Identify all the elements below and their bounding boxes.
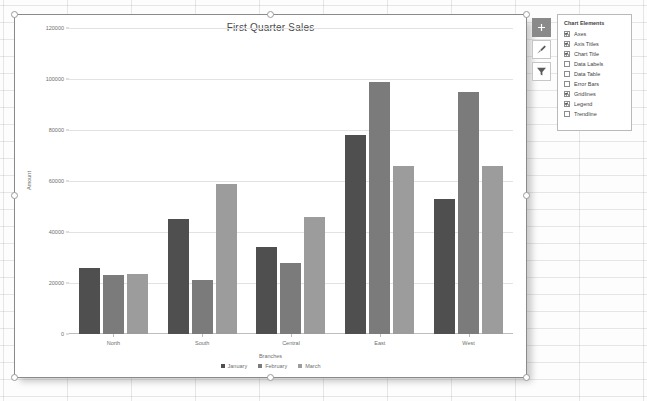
legend-item[interactable]: January [221,363,248,369]
x-axis-tick-label: South [158,340,247,346]
plus-icon [537,23,546,32]
bar[interactable] [216,184,237,334]
legend-label: March [305,363,320,369]
panel-title: Chart Elements [564,20,631,26]
brush-icon [536,44,547,55]
checkbox-unchecked-icon[interactable] [564,61,570,67]
chart-elements-list: AxesAxis TitlesChart TitleData LabelsDat… [558,29,631,119]
resize-handle-bottom-left[interactable] [11,374,18,381]
x-axis-tick-mark [469,334,470,337]
legend-label: February [265,363,287,369]
bar-group: Central [247,28,336,334]
chart-elements-panel[interactable]: Chart Elements AxesAxis TitlesChart Titl… [557,14,632,131]
legend-item[interactable]: March [298,363,320,369]
y-axis-tick-label: 120000 [46,25,64,31]
bar-group: East [335,28,424,334]
x-axis-tick-label: Central [247,340,336,346]
chart-filters-button[interactable] [532,62,551,81]
checkbox-checked-icon[interactable] [564,101,570,107]
bar[interactable] [304,217,325,334]
chart-element-row[interactable]: Error Bars [558,79,631,89]
checkbox-checked-icon[interactable] [564,41,570,47]
bar[interactable] [256,247,277,334]
resize-handle-middle-right[interactable] [523,192,530,199]
resize-handle-bottom-right[interactable] [523,374,530,381]
resize-handle-top-center[interactable] [267,11,274,18]
funnel-icon [536,66,547,77]
resize-handle-bottom-center[interactable] [267,374,274,381]
chart-element-row[interactable]: Data Labels [558,59,631,69]
y-axis-tick-label: 0 [61,331,64,337]
y-axis-tick-label: 20000 [49,280,64,286]
legend-label: January [228,363,248,369]
y-axis-tick-label: 40000 [49,229,64,235]
resize-handle-top-right[interactable] [523,11,530,18]
chart-element-row[interactable]: Axes [558,29,631,39]
x-axis-tick-mark [113,334,114,337]
chart-element-label: Legend [574,101,592,107]
chart-elements-button[interactable] [532,18,551,37]
chart-element-label: Axis Titles [574,41,599,47]
bar[interactable] [458,92,479,334]
chart-element-row[interactable]: Chart Title [558,49,631,59]
bar-group: West [424,28,513,334]
resize-handle-top-left[interactable] [11,11,18,18]
bar[interactable] [393,166,414,334]
x-axis-tick-mark [291,334,292,337]
y-axis-tick-label: 100000 [46,76,64,82]
chart-legend[interactable]: JanuaryFebruaryMarch [15,363,526,369]
y-axis-tick-label: 60000 [49,178,64,184]
plot-area[interactable]: 020000400006000080000100000120000 NorthS… [69,28,513,334]
resize-handle-middle-left[interactable] [11,192,18,199]
bar[interactable] [79,268,100,334]
checkbox-unchecked-icon[interactable] [564,111,570,117]
bar-group: South [158,28,247,334]
checkbox-unchecked-icon[interactable] [564,81,570,87]
chart-element-label: Gridlines [574,91,596,97]
bar[interactable] [369,82,390,334]
x-axis-tick-mark [380,334,381,337]
legend-swatch [258,364,262,368]
checkbox-checked-icon[interactable] [564,51,570,57]
x-axis-tick-label: West [424,340,513,346]
x-axis-tick-label: East [335,340,424,346]
bar[interactable] [434,199,455,334]
chart-element-row[interactable]: Axis Titles [558,39,631,49]
legend-item[interactable]: February [258,363,287,369]
bar[interactable] [103,275,124,334]
bar[interactable] [482,166,503,334]
checkbox-checked-icon[interactable] [564,31,570,37]
chart-element-label: Data Table [574,71,600,77]
y-axis-tick-label: 80000 [49,127,64,133]
y-axis-title[interactable]: Amount [26,171,32,190]
chart-element-row[interactable]: Legend [558,99,631,109]
chart-element-row[interactable]: Data Table [558,69,631,79]
chart-element-label: Trendline [574,111,597,117]
bar[interactable] [168,219,189,334]
bar-group: North [69,28,158,334]
chart-element-label: Error Bars [574,81,599,87]
x-axis-tick-mark [202,334,203,337]
legend-swatch [221,364,225,368]
x-axis-title[interactable]: Branches [15,353,526,359]
bar[interactable] [192,280,213,334]
bar-groups: NorthSouthCentralEastWest [69,28,513,334]
chart-element-label: Data Labels [574,61,603,67]
chart-element-row[interactable]: Gridlines [558,89,631,99]
chart-element-row[interactable]: Trendline [558,109,631,119]
x-axis-tick-label: North [69,340,158,346]
chart-element-label: Axes [574,31,586,37]
chart-styles-button[interactable] [532,40,551,59]
checkbox-checked-icon[interactable] [564,91,570,97]
chart-object[interactable]: First Quarter Sales Amount 0200004000060… [14,14,527,378]
legend-swatch [298,364,302,368]
spreadsheet-canvas: First Quarter Sales Amount 0200004000060… [0,0,647,401]
bar[interactable] [127,274,148,334]
bar[interactable] [280,263,301,334]
chart-side-buttons [532,18,551,81]
chart-element-label: Chart Title [574,51,599,57]
bar[interactable] [345,135,366,334]
checkbox-unchecked-icon[interactable] [564,71,570,77]
